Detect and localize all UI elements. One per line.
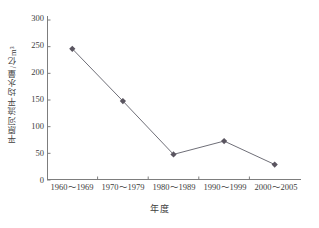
y-tick-label: 0 (18, 176, 44, 185)
series-line (72, 49, 274, 165)
x-tick-label: 1960～1969 (51, 183, 94, 192)
x-tick-label: 1980～1989 (153, 183, 196, 192)
y-tick-label: 200 (18, 68, 44, 77)
y-tick-label: 150 (18, 95, 44, 104)
y-tick-label: 50 (18, 149, 44, 158)
x-tick-label: 2000～2005 (255, 183, 298, 192)
data-point-marker (272, 161, 278, 167)
x-tick-marks (98, 177, 250, 181)
y-tick-label: 100 (18, 122, 44, 131)
y-tick-label: 300 (18, 14, 44, 23)
series-canvas (47, 18, 300, 182)
x-tick-label: 1990～1999 (204, 183, 247, 192)
x-axis-title: 年度 (0, 202, 319, 215)
x-axis-tick-labels: 1960～1969 1970～1979 1980～1989 1990～1999 … (47, 183, 301, 199)
x-tick-label: 1970～1979 (102, 183, 145, 192)
y-tick-marks (47, 20, 51, 180)
series-markers (69, 46, 278, 168)
y-tick-label: 250 (18, 41, 44, 50)
y-axis-tick-labels: 300 250 200 150 100 50 0 (14, 0, 44, 228)
line-chart: 平原河流平均水量/亿m³ 300 250 200 150 100 50 0 19… (0, 0, 319, 228)
data-point-marker (221, 138, 227, 144)
plot-area (47, 18, 300, 178)
